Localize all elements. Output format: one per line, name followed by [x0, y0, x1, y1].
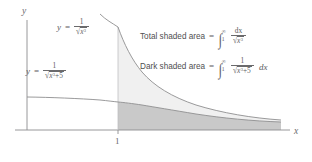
curve-label-upper-sqrt: √x3 [76, 27, 87, 37]
curve-label-upper-lhs: y [57, 23, 61, 32]
annotation-total-exp: 3 [240, 37, 243, 42]
curve-label-upper: y = 1 √x3 [57, 18, 89, 36]
integral-icon: ∫ [219, 35, 223, 45]
annotation-dark-trailing: dx [259, 62, 268, 72]
curve-label-lower-extra: +5 [55, 71, 63, 80]
annotation-total-sqrt: √x3 [233, 36, 244, 46]
x-tick-label-1: 1 [115, 136, 120, 146]
curve-label-lower-equals: = [34, 66, 39, 76]
annotation-dark-sqrt: √x3+5 [233, 66, 252, 76]
annotation-dark-integral: ∫∞1 1 √x3+5 dx [218, 57, 267, 75]
annotation-total-integral: ∫∞1 dx √x3 [218, 27, 246, 45]
radical-icon: √ [233, 36, 237, 46]
annotation-dark-shaded-area: Dark shaded area = ∫∞1 1 √x3+5 dx [140, 57, 267, 75]
annotation-total-equals: = [209, 31, 214, 41]
annotation-total-text: Total shaded area [140, 32, 205, 41]
x-axis-label: x [294, 126, 298, 136]
curve-label-upper-equals: = [65, 22, 70, 32]
annotation-total-shaded-area: Total shaded area = ∫∞1 dx √x3 [140, 27, 246, 45]
figure-container: y x 1 y = 1 √x3 y = 1 [0, 0, 312, 162]
radical-icon: √ [233, 66, 237, 76]
annotation-dark-equals: = [209, 61, 214, 71]
curve-label-lower: y = 1 √x3+5 [26, 62, 66, 80]
curve-label-lower-lhs: y [26, 67, 30, 76]
curve-label-lower-fraction: 1 √x3+5 [43, 62, 66, 80]
plot-canvas [0, 0, 312, 162]
curve-label-lower-sqrt: √x3+5 [45, 71, 64, 81]
radical-icon: √ [76, 27, 80, 37]
integral-icon: ∫ [219, 65, 223, 75]
annotation-dark-text: Dark shaded area [140, 62, 205, 71]
radical-icon: √ [45, 71, 49, 81]
annotation-dark-extra: +5 [243, 66, 251, 75]
curve-label-upper-exp: 3 [83, 28, 86, 33]
y-axis-label: y [22, 6, 26, 16]
curve-label-upper-fraction: 1 √x3 [74, 18, 89, 36]
